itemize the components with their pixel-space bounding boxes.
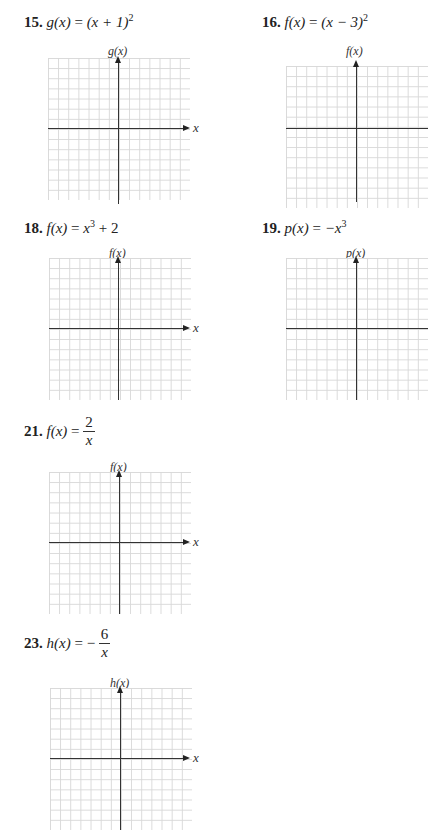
- expression-base: −x: [325, 220, 342, 236]
- y-axis-arrow-icon: [115, 256, 121, 263]
- problem-number: 15.: [24, 14, 43, 30]
- problem-number: 23.: [24, 635, 43, 651]
- equals-sign: =: [71, 423, 79, 439]
- function-name: h(x): [47, 635, 71, 651]
- y-axis-label: f(x): [346, 44, 363, 59]
- y-axis: [118, 262, 119, 400]
- problem-number: 19.: [262, 220, 281, 236]
- y-axis-arrow-icon: [353, 60, 359, 67]
- y-axis: [356, 262, 357, 400]
- problem-number: 18.: [24, 220, 43, 236]
- problem-18-heading: 18. f(x) = x3 + 2: [24, 218, 118, 237]
- equals-sign: =: [74, 635, 82, 651]
- denominator: x: [83, 432, 95, 449]
- equals-sign: =: [71, 220, 79, 236]
- graph-grid-18[interactable]: [49, 258, 191, 400]
- x-axis-arrow-icon: [183, 325, 190, 331]
- problem-number: 16.: [262, 14, 281, 30]
- y-axis: [118, 62, 119, 204]
- y-axis-arrow-icon: [117, 686, 123, 693]
- y-axis-arrow-icon: [116, 470, 122, 477]
- problem-23-heading: 23. h(x) = − 6x: [24, 626, 110, 661]
- fraction: 6x: [99, 626, 111, 661]
- y-axis: [120, 692, 121, 830]
- numerator: 6: [99, 626, 111, 644]
- graph-grid-23[interactable]: [50, 688, 192, 830]
- y-axis: [356, 66, 357, 202]
- expression: (x − 3): [321, 14, 363, 30]
- exponent: 2: [363, 12, 368, 23]
- x-axis: [49, 328, 185, 329]
- equals-sign: =: [74, 14, 82, 30]
- fraction: 2x: [83, 414, 95, 449]
- graph-grid-19[interactable]: [286, 258, 428, 400]
- x-axis: [48, 128, 185, 129]
- numerator: 2: [83, 414, 95, 432]
- x-axis-label: x: [193, 320, 199, 336]
- x-axis: [286, 128, 428, 129]
- exponent: 3: [341, 218, 346, 229]
- y-axis-arrow-icon: [115, 56, 121, 63]
- x-axis-label: x: [193, 120, 199, 136]
- sign: −: [87, 635, 95, 651]
- graph-grid-16[interactable]: [286, 66, 428, 208]
- function-name: f(x): [47, 423, 68, 439]
- function-name: f(x): [47, 220, 68, 236]
- y-axis-arrow-icon: [353, 256, 359, 263]
- x-axis-arrow-icon: [183, 125, 190, 131]
- function-name: g(x): [47, 14, 71, 30]
- y-axis: [119, 476, 120, 614]
- problem-21-heading: 21. f(x) = 2x: [24, 414, 95, 449]
- problem-16-heading: 16. f(x) = (x − 3)2: [262, 12, 368, 31]
- x-axis-arrow-icon: [183, 755, 190, 761]
- graph-grid-15[interactable]: [48, 58, 190, 200]
- x-axis-arrow-icon: [183, 539, 190, 545]
- equals-sign: =: [309, 14, 317, 30]
- x-axis: [49, 542, 185, 543]
- function-name: f(x): [285, 14, 306, 30]
- graph-grid-21[interactable]: [49, 472, 191, 614]
- function-name: p(x): [285, 220, 309, 236]
- exponent: 2: [128, 12, 133, 23]
- problem-15-heading: 15. g(x) = (x + 1)2: [24, 12, 133, 31]
- x-axis-label: x: [193, 534, 199, 550]
- equals-sign: =: [312, 220, 320, 236]
- denominator: x: [99, 644, 111, 661]
- x-axis: [286, 328, 428, 329]
- problem-19-heading: 19. p(x) = −x3: [262, 218, 346, 237]
- x-axis: [50, 758, 185, 759]
- problem-number: 21.: [24, 423, 43, 439]
- x-axis-label: x: [193, 750, 199, 766]
- expression-tail: + 2: [95, 220, 118, 236]
- expression: (x + 1): [87, 14, 129, 30]
- expression-base: x: [83, 220, 90, 236]
